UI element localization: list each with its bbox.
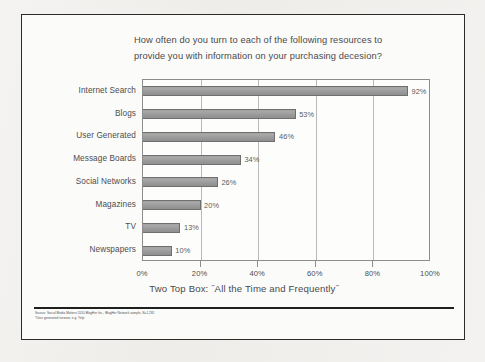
bar-row: 34% bbox=[143, 148, 429, 171]
chart-caption: Two Top Box: ˝All the Time and Frequentl… bbox=[22, 283, 466, 294]
x-axis-tick bbox=[315, 261, 316, 267]
footnote: Source: Social Media Matters 2010 BlogHe… bbox=[35, 311, 455, 320]
bar-value-label: 46% bbox=[279, 132, 294, 141]
bar bbox=[143, 200, 201, 210]
bar-value-label: 92% bbox=[411, 87, 426, 96]
x-axis-tick-label: 0% bbox=[136, 269, 147, 278]
x-axis-tick-label: 40% bbox=[249, 269, 265, 278]
category-label: TV bbox=[50, 216, 140, 239]
x-axis-tick bbox=[257, 261, 258, 267]
category-axis: Internet SearchBlogsUser GeneratedMessag… bbox=[50, 79, 140, 261]
chart-title: How often do you turn to each of the fol… bbox=[134, 33, 444, 64]
bar-row: 46% bbox=[143, 126, 429, 149]
category-label: Social Networks bbox=[50, 170, 140, 193]
bar bbox=[143, 109, 296, 119]
bar bbox=[143, 86, 408, 96]
chart-plot-area: Internet SearchBlogsUser GeneratedMessag… bbox=[22, 75, 466, 275]
slide-frame: How often do you turn to each of the fol… bbox=[21, 14, 465, 340]
footnote-divider bbox=[34, 307, 454, 309]
bar-value-label: 20% bbox=[204, 201, 219, 210]
bar bbox=[143, 223, 180, 233]
x-axis-tick-label: 20% bbox=[192, 269, 208, 278]
x-axis-tick-label: 80% bbox=[365, 269, 381, 278]
bar-value-label: 34% bbox=[244, 155, 259, 164]
bar-row: 92% bbox=[143, 80, 429, 103]
bar bbox=[143, 177, 218, 187]
chart-title-line-2: provide you with information on your pur… bbox=[134, 49, 444, 65]
category-label: Internet Search bbox=[50, 79, 140, 102]
bar-row: 53% bbox=[143, 103, 429, 126]
bar-value-label: 53% bbox=[299, 110, 314, 119]
plot-box: 92%53%46%34%26%20%13%10% bbox=[142, 79, 430, 261]
category-label: Magazines bbox=[50, 193, 140, 216]
bar-row: 20% bbox=[143, 194, 429, 217]
footnote-line: *User generated reviews, e.g. Yelp bbox=[35, 316, 455, 321]
category-label: Blogs bbox=[50, 102, 140, 125]
x-axis-tick-label: 100% bbox=[420, 269, 440, 278]
x-axis-tick bbox=[372, 261, 373, 267]
x-axis: 0%20%40%60%80%100% bbox=[142, 261, 430, 285]
bar-value-label: 26% bbox=[221, 178, 236, 187]
bar bbox=[143, 155, 241, 165]
category-label: Message Boards bbox=[50, 147, 140, 170]
category-label: User Generated bbox=[50, 125, 140, 148]
bar-row: 26% bbox=[143, 171, 429, 194]
bar bbox=[143, 246, 172, 256]
bar bbox=[143, 132, 275, 142]
bar-row: 13% bbox=[143, 217, 429, 240]
x-axis-tick-label: 60% bbox=[307, 269, 323, 278]
bar-series: 92%53%46%34%26%20%13%10% bbox=[143, 80, 429, 260]
category-label: Newspapers bbox=[50, 238, 140, 261]
bar-value-label: 13% bbox=[184, 223, 199, 232]
x-axis-tick bbox=[200, 261, 201, 267]
bar-value-label: 10% bbox=[175, 246, 190, 255]
bar-row: 10% bbox=[143, 239, 429, 262]
chart-title-line-1: How often do you turn to each of the fol… bbox=[134, 33, 444, 49]
